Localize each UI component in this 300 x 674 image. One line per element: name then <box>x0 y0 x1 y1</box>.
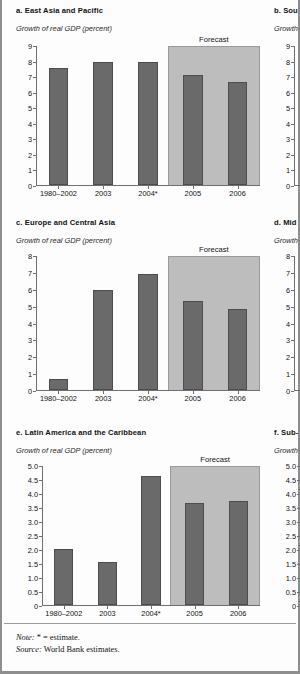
y-axis-tick-label: 4.0 <box>286 490 296 499</box>
y-axis-tick-label: 6 <box>286 285 290 294</box>
y-axis-tick <box>39 466 42 467</box>
y-axis-tick-label: 0.5 <box>286 588 296 597</box>
x-axis-tick-label: 2004* <box>138 394 157 403</box>
panel-a-plot: Forecast01234567891980–200220032004*2005… <box>36 46 260 186</box>
y-axis-line <box>294 256 295 391</box>
y-axis-tick <box>33 340 36 341</box>
y-axis-tick-label: 7 <box>28 268 32 277</box>
y-axis-tick <box>291 139 294 140</box>
panel-c-plot: Forecast0123456781980–200220032004*20052… <box>36 256 260 391</box>
y-axis-tick <box>39 536 42 537</box>
x-axis-tick-label: 2003 <box>95 394 111 403</box>
y-axis-line <box>36 46 37 186</box>
x-axis-tick-label: 2006 <box>229 394 245 403</box>
y-axis-tick <box>33 124 36 125</box>
y-axis-tick <box>291 256 294 257</box>
y-axis-tick <box>39 564 42 565</box>
panel-b-axis-title: Growth of real GDP (percent) <box>274 24 300 33</box>
y-axis-tick-label: 0 <box>286 387 290 396</box>
y-axis-tick <box>39 550 42 551</box>
y-axis-tick <box>39 592 42 593</box>
note-text: * = estimate. <box>37 633 80 642</box>
y-axis-tick-label: 2 <box>28 150 32 159</box>
y-axis-tick-label: 7 <box>286 268 290 277</box>
y-axis-tick-label: 2.0 <box>28 546 38 555</box>
x-axis-tick-label: 2004* <box>141 609 160 618</box>
x-axis-line <box>294 390 300 391</box>
bar <box>54 549 73 605</box>
y-axis-tick <box>33 186 36 187</box>
y-axis-tick-label: 5.0 <box>286 462 296 471</box>
y-axis-tick-label: 7 <box>28 73 32 82</box>
y-axis-tick-label: 5.0 <box>28 462 38 471</box>
y-axis-tick <box>291 155 294 156</box>
bar <box>185 503 204 605</box>
x-axis-tick-label: 2003 <box>95 189 111 198</box>
y-axis-tick <box>33 93 36 94</box>
y-axis-tick-label: 3.0 <box>28 518 38 527</box>
y-axis-tick-label: 4 <box>28 319 32 328</box>
y-axis-tick <box>297 480 300 481</box>
y-axis-tick-label: 3 <box>28 135 32 144</box>
forecast-label: Forecast <box>168 35 260 44</box>
bar <box>98 562 117 605</box>
y-axis-tick-label: 1 <box>286 370 290 379</box>
bar <box>93 290 113 390</box>
y-axis-tick <box>33 391 36 392</box>
forecast-label: Forecast <box>170 455 260 464</box>
figure-footnotes: Note: * = estimate. Source: World Bank e… <box>16 633 120 657</box>
y-axis-tick <box>33 139 36 140</box>
bar <box>229 501 248 605</box>
y-axis-tick-label: 8 <box>286 252 290 261</box>
y-axis-tick-label: 0 <box>28 182 32 191</box>
y-axis-tick <box>39 606 42 607</box>
y-axis-tick-label: 3.0 <box>286 518 296 527</box>
y-axis-tick-label: 9 <box>286 42 290 51</box>
x-axis-tick-label: 2005 <box>185 394 201 403</box>
source-label: Source: <box>16 645 42 654</box>
footer-divider <box>4 623 296 624</box>
panel-a-title: a. East Asia and Pacific <box>16 6 103 15</box>
y-axis-tick <box>33 273 36 274</box>
y-axis-tick <box>33 62 36 63</box>
y-axis-tick <box>33 307 36 308</box>
x-axis-tick-label: 1980–2002 <box>40 394 77 403</box>
panel-d-axis-title: Growth of real GDP (percent) <box>274 236 300 245</box>
panel-b-plot: 012345678919 <box>294 46 300 186</box>
x-axis-tick-label: 2005 <box>186 609 202 618</box>
bar <box>228 82 248 185</box>
panel-e-plot: Forecast00.51.01.52.02.53.03.54.04.55.01… <box>42 466 260 606</box>
panel-c: c. Europe and Central Asia Growth of rea… <box>16 218 266 418</box>
y-axis-tick <box>297 522 300 523</box>
y-axis-tick-label: 1.5 <box>28 560 38 569</box>
y-axis-tick <box>39 494 42 495</box>
y-axis-tick-label: 9 <box>28 42 32 51</box>
y-axis-tick-label: 0 <box>292 602 296 611</box>
y-axis-tick-label: 6 <box>28 285 32 294</box>
x-axis-tick-label: 2005 <box>185 189 201 198</box>
y-axis-line <box>36 256 37 391</box>
y-axis-tick-label: 6 <box>28 88 32 97</box>
y-axis-tick <box>291 170 294 171</box>
y-axis-tick <box>33 108 36 109</box>
y-axis-tick <box>297 494 300 495</box>
y-axis-tick <box>33 290 36 291</box>
y-axis-tick-label: 3.5 <box>28 504 38 513</box>
y-axis-tick-label: 8 <box>28 57 32 66</box>
x-axis-tick-label: 2006 <box>229 189 245 198</box>
y-axis-tick-label: 5 <box>28 104 32 113</box>
panel-e: e. Latin America and the Caribbean Growt… <box>16 428 266 628</box>
y-axis-tick-label: 2.0 <box>286 546 296 555</box>
y-axis-tick <box>297 550 300 551</box>
y-axis-tick-label: 2.5 <box>28 532 38 541</box>
bar <box>141 476 160 605</box>
panel-b-title: b. Sou <box>274 6 298 15</box>
y-axis-tick-label: 4.0 <box>28 490 38 499</box>
x-axis-tick-label: 2006 <box>230 609 246 618</box>
bar <box>183 75 203 185</box>
y-axis-tick-label: 1 <box>28 370 32 379</box>
panel-f: f. Sub- Growth of real GDP (percent) 00.… <box>274 428 300 628</box>
panel-d-plot: 01234567819 <box>294 256 300 391</box>
y-axis-tick <box>291 93 294 94</box>
y-axis-tick-label: 3 <box>28 336 32 345</box>
